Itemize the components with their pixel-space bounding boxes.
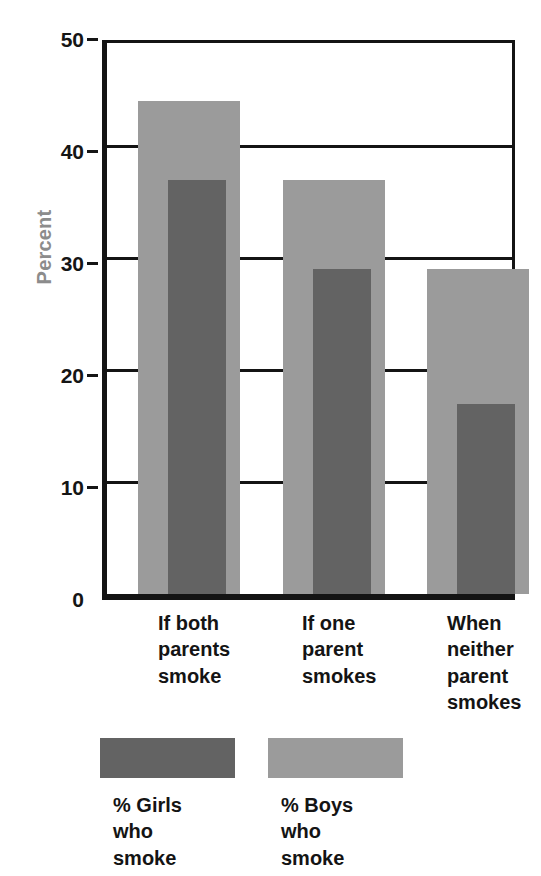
bar-girls-0 xyxy=(168,180,226,594)
x-category-label-0: If both parents smoke xyxy=(158,610,230,689)
y-tick-30: 30 xyxy=(22,253,84,274)
y-tick-30-dash xyxy=(87,262,98,265)
y-tick-0-label: 0 xyxy=(72,588,84,611)
y-tick-20-label: 20 xyxy=(61,364,84,387)
y-tick-40: 40 xyxy=(22,141,84,162)
y-tick-30-label: 30 xyxy=(61,252,84,275)
y-tick-10: 10 xyxy=(22,477,84,498)
y-tick-50-dash xyxy=(87,38,98,41)
y-tick-50-label: 50 xyxy=(61,28,84,51)
y-tick-40-dash xyxy=(87,150,98,153)
y-tick-10-dash xyxy=(87,486,98,489)
y-axis-title: Percent xyxy=(33,177,63,317)
y-tick-0: 0 xyxy=(22,589,84,610)
y-tick-50: 50 xyxy=(22,29,84,50)
plot-area xyxy=(102,40,515,600)
x-category-label-1: If one parent smokes xyxy=(302,610,377,689)
legend-swatch-boys xyxy=(268,738,403,778)
y-tick-20-dash xyxy=(87,374,98,377)
bar-chart-figure: Percent 50 40 30 20 10 0 If both parents… xyxy=(0,0,541,876)
plot-inner xyxy=(107,43,512,594)
legend-label-girls: % Girls who smoke xyxy=(113,792,182,871)
bar-girls-1 xyxy=(313,269,371,594)
legend-swatch-girls xyxy=(100,738,235,778)
legend-label-boys: % Boys who smoke xyxy=(281,792,353,871)
bar-girls-2 xyxy=(457,404,515,594)
y-tick-10-label: 10 xyxy=(61,476,84,499)
x-category-label-2: When neither parent smokes xyxy=(447,610,522,716)
y-tick-40-label: 40 xyxy=(61,140,84,163)
y-tick-20: 20 xyxy=(22,365,84,386)
